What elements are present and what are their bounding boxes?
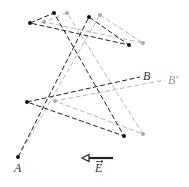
vertex-dot	[141, 41, 145, 45]
displaced-path-light	[18, 11, 165, 157]
vertex-dot	[42, 20, 46, 24]
vertex-dot	[87, 15, 91, 19]
vertex-dot	[141, 132, 145, 136]
vertex-dot	[16, 155, 20, 159]
vertex-dot	[28, 21, 32, 25]
label-B: B	[143, 69, 151, 83]
svg-text:E: E	[94, 161, 103, 175]
vertex-dot	[127, 43, 131, 47]
label-B-prime: B'	[168, 73, 178, 87]
vertex-dot	[122, 134, 126, 138]
vertex-dot	[98, 13, 102, 17]
arrowhead-icon	[82, 155, 89, 162]
path-polyline	[18, 13, 140, 157]
label-E-vector: E	[94, 160, 103, 175]
vertex-dot	[53, 99, 57, 103]
vertex-dot	[52, 11, 56, 15]
vertex-dot	[25, 100, 29, 104]
original-path-dark	[16, 11, 140, 159]
vertex-dot	[65, 11, 69, 15]
label-A: A	[13, 161, 22, 175]
diagram-canvas: A B B' E	[0, 0, 189, 187]
